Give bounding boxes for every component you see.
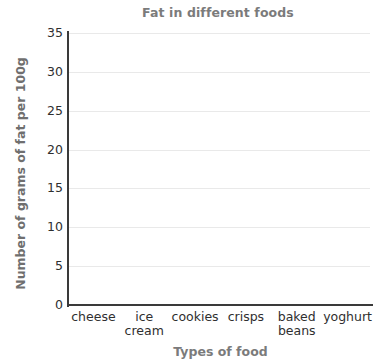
- y-tick-label: 10: [23, 221, 63, 234]
- x-tick-label-line: beans: [262, 324, 332, 338]
- y-tick-label: 5: [23, 260, 63, 273]
- x-tick-label: yoghurt: [313, 310, 377, 324]
- gridline: [68, 188, 370, 189]
- x-tick-label-line: cream: [109, 324, 179, 338]
- y-axis-title: Number of grams of fat per 100g: [13, 49, 28, 299]
- y-tick-label: 20: [23, 144, 63, 157]
- x-axis-tick-labels: cheeseicecreamcookiescrispsbakedbeansyog…: [68, 310, 373, 342]
- x-tick-label-line: yoghurt: [323, 309, 372, 324]
- bar-chart-figure: Fat in different foods 05101520253035 Nu…: [0, 0, 377, 363]
- gridline: [68, 266, 370, 267]
- gridline: [68, 111, 370, 112]
- x-axis-title: Types of food: [68, 344, 373, 359]
- gridline: [68, 33, 370, 34]
- y-tick-label: 0: [23, 299, 63, 312]
- plot-area: [68, 33, 373, 305]
- x-axis-spine: [67, 304, 373, 306]
- y-tick-label: 25: [23, 105, 63, 118]
- gridline: [68, 227, 370, 228]
- gridline: [68, 72, 370, 73]
- y-axis-spine: [67, 31, 69, 307]
- gridline: [68, 150, 370, 151]
- y-tick-label: 35: [23, 27, 63, 40]
- chart-title: Fat in different foods: [68, 5, 368, 20]
- y-tick-label: 30: [23, 66, 63, 79]
- y-tick-label: 15: [23, 182, 63, 195]
- x-tick-label-line: baked: [278, 309, 316, 324]
- x-tick-label-line: ice: [135, 309, 153, 324]
- x-tick-label-line: crisps: [228, 309, 264, 324]
